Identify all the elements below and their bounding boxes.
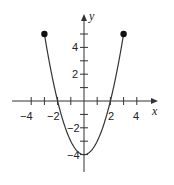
y-axis: 4 2 −2 −4 y [67, 9, 95, 172]
x-tick-label-2: 2 [108, 110, 114, 122]
y-tick-label-4: 4 [72, 41, 78, 53]
y-tick-label-2: 2 [72, 68, 78, 80]
closed-endpoint-left [41, 31, 47, 37]
x-axis-label: x [151, 104, 158, 118]
y-tick-label-neg2: −2 [67, 122, 80, 134]
x-tick-label-4: 4 [133, 110, 139, 122]
y-axis-arrow-icon [81, 14, 87, 21]
x-tick-label-neg2: −2 [47, 110, 60, 122]
parabola-chart: −4 −2 2 4 x 4 2 −2 −4 y [0, 0, 174, 185]
y-axis-label: y [88, 9, 95, 23]
closed-endpoint-right [120, 31, 126, 37]
x-tick-label-neg4: −4 [20, 110, 33, 122]
x-axis: −4 −2 2 4 x [12, 97, 158, 122]
